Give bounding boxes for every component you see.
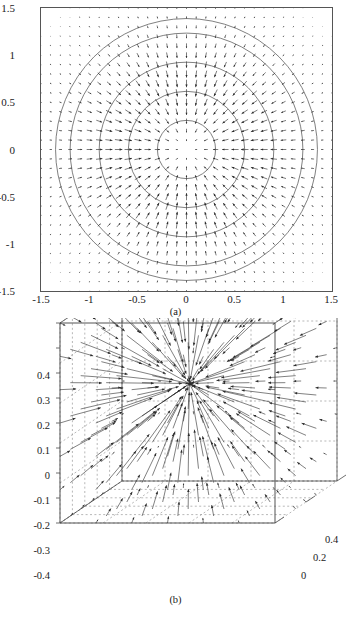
- panel-b-ztick-4: 0: [14, 471, 50, 482]
- panel-b-depthtick-0: 0.4: [325, 535, 338, 546]
- panel-b-ztick-7: -0.3: [14, 546, 50, 557]
- panel-a-ytick-1: 1: [10, 50, 16, 61]
- panel-b-ztick-1: 0.3: [14, 396, 50, 407]
- panel-a: 1.5 1 0.5 0 -0.5 -1 -1.5 -1.5 -1 -0.5 0 …: [0, 0, 351, 318]
- panel-a-xtick-0: -1.5: [32, 294, 49, 305]
- panel-b-depthtick-2: 0: [301, 571, 306, 582]
- panel-b-plot-area: [0, 318, 351, 608]
- panel-b: 0.4 0.3 0.2 0.1 0 -0.1 -0.2 -0.3 -0.4 0.…: [0, 318, 351, 630]
- panel-a-ytick-5: -1: [6, 239, 15, 250]
- panel-a-vector-field: [41, 8, 332, 291]
- panel-a-xtick-2: -0.5: [128, 294, 145, 305]
- panel-a-xtick-3: 0: [183, 294, 189, 305]
- panel-a-xtick-5: 1: [280, 294, 286, 305]
- panel-a-ytick-2: 0.5: [1, 97, 15, 108]
- panel-b-ztick-0: 0.4: [14, 371, 50, 382]
- panel-b-vector-field-3d: [0, 318, 351, 608]
- panel-a-ytick-0: 1.5: [1, 3, 15, 14]
- panel-b-ztick-3: 0.1: [14, 446, 50, 457]
- panel-b-depthtick-1: 0.2: [313, 553, 326, 564]
- panel-a-xtick-1: -1: [84, 294, 93, 305]
- panel-a-plot-area: [40, 7, 333, 292]
- panel-a-ytick-6: -1.5: [0, 286, 15, 297]
- panel-b-ztick-8: -0.4: [14, 571, 50, 582]
- panel-a-ytick-3: 0: [10, 145, 16, 156]
- panel-a-xtick-6: 1.5: [324, 294, 338, 305]
- panel-b-ztick-2: 0.2: [14, 421, 50, 432]
- panel-b-ztick-6: -0.2: [14, 521, 50, 532]
- panel-b-caption: (b): [0, 594, 351, 605]
- panel-a-xtick-4: 0.5: [227, 294, 241, 305]
- panel-a-caption: (a): [0, 306, 351, 317]
- figure-container: 1.5 1 0.5 0 -0.5 -1 -1.5 -1.5 -1 -0.5 0 …: [0, 0, 351, 630]
- panel-b-ztick-5: -0.1: [14, 496, 50, 507]
- panel-a-ytick-4: -0.5: [0, 192, 15, 203]
